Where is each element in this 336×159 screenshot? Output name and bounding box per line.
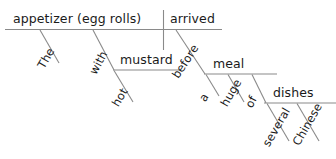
word-mustard: mustard	[120, 54, 173, 67]
sentence-diagram: appetizer (egg rolls) arrived mustard me…	[0, 0, 336, 159]
word-dishes: dishes	[273, 87, 314, 100]
word-meal: meal	[213, 58, 244, 71]
slant-a	[206, 75, 219, 97]
word-subject: appetizer (egg rolls)	[13, 13, 141, 26]
word-verb: arrived	[170, 13, 215, 26]
